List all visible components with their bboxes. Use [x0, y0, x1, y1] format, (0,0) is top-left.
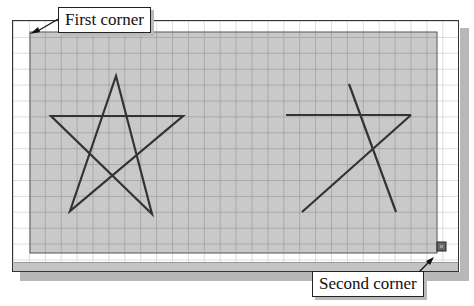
- grip-marker-center: [440, 245, 443, 248]
- second-corner-callout: Second corner: [312, 271, 424, 297]
- selection-grid: [30, 32, 437, 253]
- drawing-canvas[interactable]: [0, 0, 474, 306]
- first-corner-callout: First corner: [58, 7, 151, 33]
